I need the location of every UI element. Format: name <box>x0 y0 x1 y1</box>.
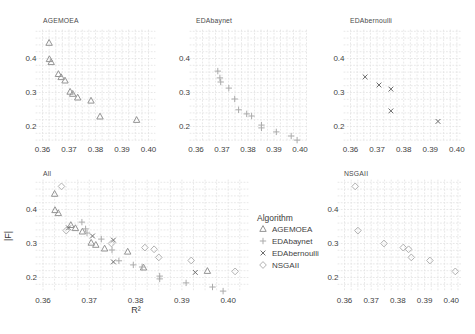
x-axis-title: R² <box>131 305 141 315</box>
y-tick-label: 0.2 <box>179 122 191 131</box>
y-tick-label: 0.3 <box>179 88 191 97</box>
cross-point <box>389 109 394 114</box>
x-tick-label: 0.36 <box>35 296 51 305</box>
diamond-point <box>427 257 434 264</box>
facet-title-edabaynet: EDAbaynet <box>196 17 232 25</box>
diamond-icon <box>260 262 267 269</box>
x-tick-label: 0.37 <box>82 296 98 305</box>
legend-item-label: AGEMOEA <box>272 225 313 234</box>
plus-point <box>209 284 215 290</box>
cross-point <box>389 87 394 92</box>
plus-point <box>218 79 224 85</box>
grid <box>36 180 248 290</box>
plus-point <box>232 96 238 102</box>
plus-point <box>157 276 163 282</box>
figure-svg: 0.360.370.380.390.400.40.30.20.360.370.3… <box>0 0 475 334</box>
x-tick-label: 0.38 <box>390 296 406 305</box>
x-tick-label: 0.40 <box>220 296 236 305</box>
diamond-point <box>232 268 239 275</box>
facet-edabernoulli: 0.360.370.380.390.400.40.30.2 <box>333 30 465 154</box>
faceted-scatter-figure: 0.360.370.380.390.400.40.30.20.360.370.3… <box>0 0 475 334</box>
x-tick-label: 0.39 <box>417 296 433 305</box>
plus-point <box>258 125 264 131</box>
triangle-point <box>68 222 74 228</box>
y-tick-label: 0.4 <box>26 205 38 214</box>
y-tick-label: 0.4 <box>327 205 339 214</box>
x-tick-label: 0.37 <box>369 145 385 154</box>
x-tick-label: 0.39 <box>266 145 282 154</box>
plus-point <box>220 288 226 294</box>
x-tick-label: 0.40 <box>141 145 157 154</box>
plus-point <box>82 226 88 232</box>
triangle-point <box>125 248 131 254</box>
y-tick-label: 0.3 <box>327 239 339 248</box>
y-tick-label: 0.4 <box>179 54 191 63</box>
legend-title: Algorithm <box>257 213 293 223</box>
legend-item-agemoea: AGEMOEA <box>260 225 313 234</box>
plus-point <box>183 280 189 286</box>
x-tick-label: 0.38 <box>396 145 412 154</box>
cross-point <box>363 75 368 80</box>
facet-title-agemoea: AGEMOEA <box>43 17 79 24</box>
plus-icon <box>260 238 266 244</box>
series-nsgaii <box>352 183 459 275</box>
grid <box>36 30 155 142</box>
legend: Algorithm AGEMOEA EDAbaynet EDAbernoulli… <box>257 213 319 270</box>
facet-title-edabernoulli: EDAbernoulli <box>350 17 392 24</box>
legend-item-label: EDAbernoulli <box>272 249 319 258</box>
triangle-icon <box>260 226 266 232</box>
y-tick-label: 0.2 <box>26 273 38 282</box>
legend-item-label: NSGAII <box>272 261 299 270</box>
diamond-point <box>151 246 158 253</box>
x-tick-label: 0.40 <box>444 296 460 305</box>
x-tick-label: 0.36 <box>343 145 359 154</box>
x-tick-label: 0.37 <box>363 296 379 305</box>
y-tick-label: 0.3 <box>26 239 38 248</box>
plus-point <box>116 258 122 264</box>
y-axis-title: |F| <box>3 231 13 241</box>
plus-point <box>109 247 115 253</box>
plus-point <box>79 219 85 225</box>
x-tick-label: 0.40 <box>292 145 308 154</box>
legend-item-edabernoulli: EDAbernoulli <box>261 249 319 258</box>
grid <box>338 180 462 290</box>
plus-point <box>294 137 300 143</box>
x-tick-label: 0.40 <box>449 145 465 154</box>
x-tick-label: 0.37 <box>214 145 230 154</box>
y-tick-label: 0.3 <box>333 88 345 97</box>
x-tick-label: 0.36 <box>337 296 353 305</box>
x-tick-label: 0.38 <box>88 145 104 154</box>
x-tick-label: 0.38 <box>128 296 144 305</box>
triangle-point <box>46 40 52 46</box>
facet-title-all: All <box>43 170 51 177</box>
x-tick-label: 0.39 <box>174 296 190 305</box>
triangle-point <box>101 245 107 251</box>
plus-point <box>235 107 241 113</box>
facet-title-nsgaii: NSGAII <box>344 170 368 177</box>
y-tick-label: 0.2 <box>333 122 345 131</box>
y-tick-label: 0.2 <box>327 273 339 282</box>
grid <box>344 30 462 142</box>
y-tick-label: 0.4 <box>333 54 345 63</box>
facet-panels: 0.360.370.380.390.400.40.30.20.360.370.3… <box>25 30 465 305</box>
facet-nsgaii: 0.360.370.380.390.400.40.30.2 <box>327 180 462 305</box>
y-tick-label: 0.2 <box>25 122 37 131</box>
facet-all: 0.360.370.380.390.400.40.30.2 <box>26 180 248 305</box>
x-tick-label: 0.37 <box>61 145 77 154</box>
legend-item-edabaynet: EDAbaynet <box>260 237 313 246</box>
x-tick-label: 0.38 <box>240 145 256 154</box>
facet-edabaynet: 0.360.370.380.390.400.40.30.2 <box>179 30 308 154</box>
x-tick-label: 0.39 <box>423 145 439 154</box>
y-tick-label: 0.3 <box>25 88 37 97</box>
cross-point <box>90 234 95 239</box>
facet-agemoea: 0.360.370.380.390.400.40.30.2 <box>25 30 156 154</box>
y-tick-label: 0.4 <box>25 54 37 63</box>
grid <box>190 30 308 142</box>
x-tick-label: 0.36 <box>188 145 204 154</box>
x-tick-label: 0.36 <box>35 145 51 154</box>
legend-item-label: EDAbaynet <box>272 237 313 246</box>
x-tick-label: 0.39 <box>114 145 130 154</box>
cross-point <box>193 270 198 275</box>
triangle-point <box>88 239 94 245</box>
cross-icon <box>261 251 266 256</box>
